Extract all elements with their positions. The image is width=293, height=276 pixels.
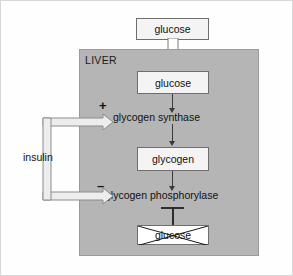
node-glucose-output-label: glucose [155,229,191,241]
node-glycogen-label: glycogen [152,153,194,165]
liver-label: LIVER [85,54,117,66]
activation-plus-sign: + [99,99,107,112]
node-glucose-blood: glucose [136,18,209,40]
node-glycogen: glycogen [137,147,209,171]
node-glucose-output-blocked: glucose [137,225,209,245]
node-glucose-liver-label: glucose [155,77,191,89]
node-glucose-liver: glucose [137,71,209,94]
enzyme-glycogen-synthase: glycogen synthase [113,111,200,123]
pathway-diagram: glucose LIVER glucose glycogen synthase … [0,0,293,276]
hormone-insulin-label: insulin [23,151,53,163]
inhibition-minus-sign: – [97,179,104,192]
inhibition-bar-icon [161,202,184,225]
node-glucose-blood-label: glucose [154,23,190,35]
